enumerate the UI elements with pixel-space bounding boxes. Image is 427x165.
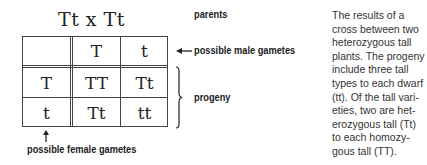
punnett-square: T t T TT Tt t Tt tt: [22, 36, 168, 127]
caption-line: The results of a: [332, 9, 427, 23]
arrow-up-icon: [42, 130, 50, 142]
male-gametes-label: possible male gametes: [194, 44, 295, 56]
caption-line: to each homozy-: [332, 131, 427, 145]
caption-line: include three tall: [332, 63, 427, 77]
offspring-cell: Tt: [73, 98, 120, 127]
parents-cross: Tt x Tt: [58, 8, 125, 30]
caption-line: heterozygous tall: [332, 36, 427, 50]
male-gamete-cell: T: [73, 37, 120, 65]
caption-line: (tt). Of the tall vari-: [332, 91, 427, 105]
caption-line: gous tall (TT).: [332, 145, 427, 159]
female-gamete-cell: t: [23, 98, 70, 127]
caption-line: cross between two: [332, 23, 427, 37]
female-gametes-label: possible female gametes: [27, 143, 136, 155]
caption-line: erozygous tall (Tt): [332, 118, 427, 132]
progeny-label: progeny: [194, 91, 230, 103]
caption-line: plants. The progeny: [332, 50, 427, 64]
right-brace-icon: [175, 66, 183, 129]
female-gamete-cell: T: [23, 68, 70, 97]
caption: The results of a cross between two heter…: [332, 9, 427, 159]
caption-line: eties, two are het-: [332, 104, 427, 118]
caption-line: types to each dwarf: [332, 77, 427, 91]
offspring-cell: Tt: [121, 68, 168, 97]
male-gamete-cell: t: [121, 37, 168, 65]
parents-label: parents: [194, 8, 227, 20]
offspring-cell: tt: [121, 98, 168, 127]
arrow-left-icon: [176, 47, 192, 55]
offspring-cell: TT: [73, 68, 120, 97]
